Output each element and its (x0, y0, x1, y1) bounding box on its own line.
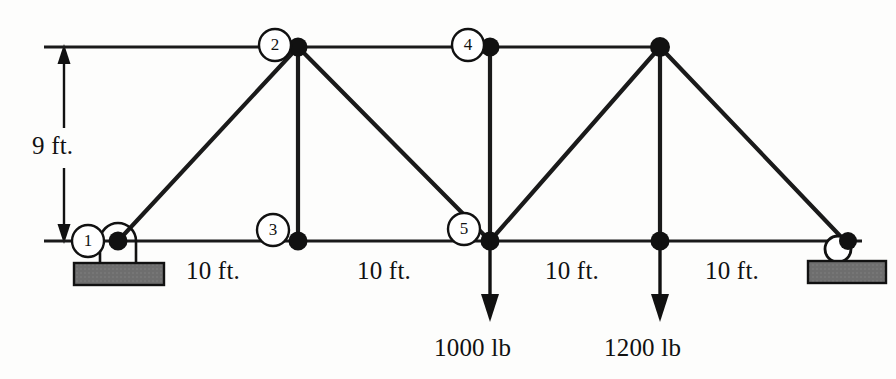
load-label-1000: 1000 lb (434, 335, 511, 360)
node-label-1: 1 (71, 224, 105, 258)
span-label-4: 10 ft. (705, 258, 759, 283)
height-dimension-label: 9 ft. (32, 133, 73, 158)
truss-members (118, 47, 845, 241)
member-6-8 (660, 47, 845, 241)
roller-support-block (808, 261, 886, 283)
span-label-3: 10 ft. (545, 258, 599, 283)
joint-1 (109, 232, 128, 251)
load-arrow-1200 (651, 241, 669, 322)
member-1-2 (118, 47, 298, 241)
member-5-6 (490, 47, 660, 241)
truss-svg (0, 0, 896, 379)
truss-joints (109, 37, 858, 251)
node-label-3: 3 (256, 213, 290, 247)
joint-8 (839, 232, 857, 250)
load-arrow-1000 (481, 241, 499, 322)
load-label-1200: 1200 lb (604, 335, 681, 360)
truss-diagram: 1 2 3 4 5 9 ft. 10 ft. 10 ft. 10 ft. 10 … (0, 0, 896, 379)
joint-6 (650, 37, 670, 57)
node-label-4: 4 (451, 28, 485, 62)
joint-3 (289, 232, 308, 251)
node-label-2: 2 (258, 28, 292, 62)
node-label-5: 5 (447, 212, 481, 246)
span-label-1: 10 ft. (186, 258, 240, 283)
span-label-2: 10 ft. (357, 258, 411, 283)
pin-support-block (74, 263, 164, 285)
